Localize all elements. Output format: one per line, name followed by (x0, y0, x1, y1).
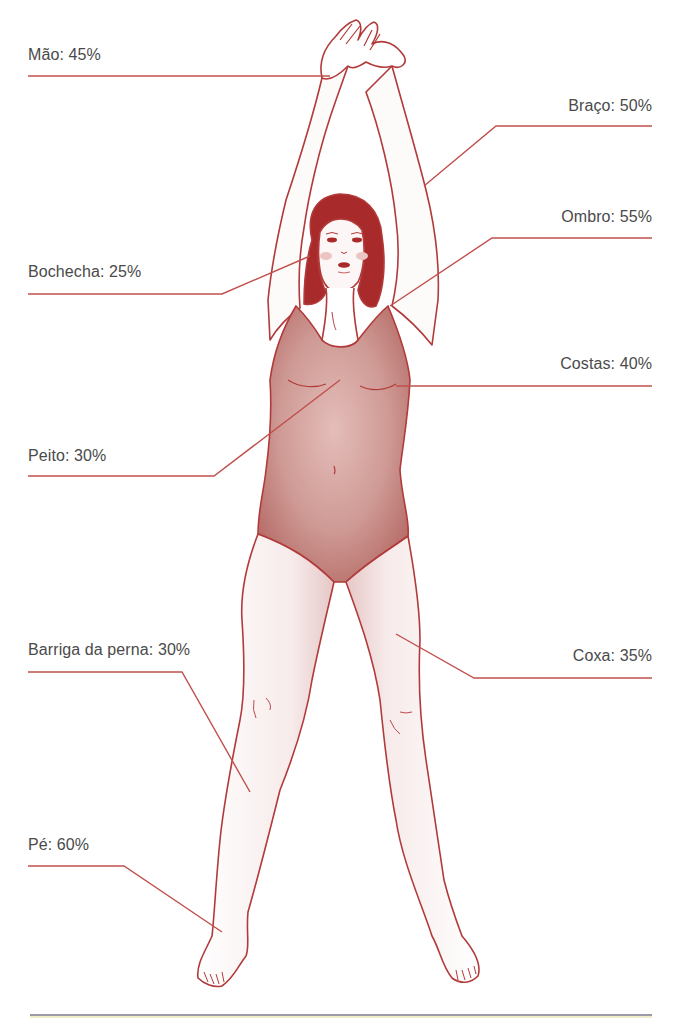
leader-line-barriga (28, 672, 250, 792)
torso (258, 306, 410, 582)
label-bochecha: Bochecha: 25% (28, 262, 141, 282)
label-coxa: Coxa: 35% (573, 646, 652, 666)
label-peito: Peito: 30% (28, 446, 106, 466)
leader-line-pe (28, 866, 222, 932)
label-ombro: Ombro: 55% (561, 207, 652, 227)
label-costas: Costas: 40% (560, 354, 652, 374)
label-braco: Braço: 50% (568, 96, 652, 116)
figure-illustration (0, 0, 682, 1026)
leader-line-braco (424, 126, 652, 186)
legs (198, 534, 479, 987)
label-mao: Mão: 45% (28, 45, 101, 65)
label-barriga-da-perna: Barriga da perna: 30% (28, 640, 190, 660)
label-pe: Pé: 60% (28, 835, 89, 855)
body-diagram: Mão: 45% Braço: 50% Ombro: 55% Bochecha:… (0, 0, 682, 1026)
